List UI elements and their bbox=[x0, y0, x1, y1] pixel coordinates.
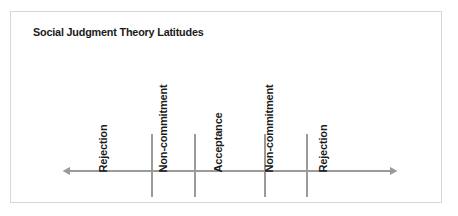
figure-frame: Social Judgment Theory Latitudes Rejecti… bbox=[10, 11, 442, 203]
region-label-acceptance: Acceptance bbox=[213, 112, 225, 172]
tick-mark bbox=[151, 134, 153, 197]
page-title: Social Judgment Theory Latitudes bbox=[33, 26, 204, 38]
tick-mark bbox=[306, 134, 308, 197]
region-label-non-commitment-left: Non-commitment bbox=[158, 84, 170, 172]
tick-mark bbox=[194, 134, 196, 197]
region-label-non-commitment-right: Non-commitment bbox=[264, 84, 276, 172]
axis-arrow bbox=[61, 161, 399, 181]
region-label-rejection-right: Rejection bbox=[318, 125, 330, 173]
latitude-diagram: Social Judgment Theory Latitudes Rejecti… bbox=[11, 12, 443, 204]
region-label-rejection-left: Rejection bbox=[98, 125, 110, 173]
